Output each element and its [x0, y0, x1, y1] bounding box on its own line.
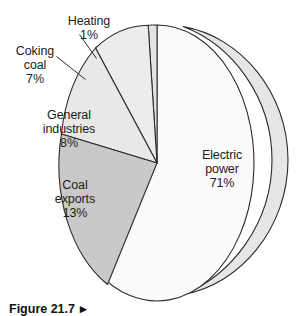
slice-label-coal-exports-name-1: Coal — [40, 178, 110, 192]
slice-label-heating: Heating 1% — [52, 14, 126, 42]
slice-label-coking-coal: Coking coal 7% — [2, 44, 68, 86]
slice-label-coal-exports-name-2: exports — [40, 192, 110, 206]
slice-label-electric-power-name-1: Electric — [184, 148, 260, 162]
slice-label-electric-power: Electric power 71% — [184, 148, 260, 190]
figure-caption-text: Figure 21.7 — [9, 302, 75, 316]
slice-label-electric-power-value: 71% — [184, 176, 260, 190]
slice-label-coking-coal-value: 7% — [2, 72, 68, 86]
slice-label-general-industries-value: 8% — [28, 136, 110, 150]
figure-caption: Figure 21.7▸ — [9, 301, 87, 316]
slice-label-coal-exports: Coal exports 13% — [40, 178, 110, 220]
slice-label-coking-coal-name-2: coal — [2, 58, 68, 72]
slice-label-general-industries: General industries 8% — [28, 108, 110, 150]
slice-label-heating-value: 1% — [52, 28, 126, 42]
slice-label-general-industries-name-2: industries — [28, 122, 110, 136]
figure-caption-marker-icon: ▸ — [80, 301, 87, 316]
slice-label-electric-power-name-2: power — [184, 162, 260, 176]
slice-label-coking-coal-name-1: Coking — [2, 44, 68, 58]
slice-label-heating-name: Heating — [52, 14, 126, 28]
slice-label-coal-exports-value: 13% — [40, 206, 110, 220]
slice-label-general-industries-name-1: General — [28, 108, 110, 122]
